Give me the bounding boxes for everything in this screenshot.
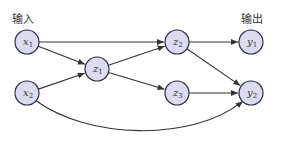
edge-x1-z1 [38,46,85,64]
node-x2: x2 [15,81,39,105]
edge-x2-z1 [38,73,84,89]
edge-z1-z2 [108,46,164,65]
edge-z2-y2 [187,49,240,86]
nodes-group: x1x2z1z2z3y1y2 [15,30,263,105]
node-x1: x1 [15,30,39,54]
edge-z1-z3 [108,72,164,89]
graph-diagram: x1x2z1z2z3y1y2 [0,0,283,142]
edge-x2-y2 [36,101,243,131]
node-y1: y1 [239,30,263,54]
edges-group [36,42,243,131]
node-z1: z1 [85,57,109,81]
node-z3: z3 [165,81,189,105]
node-y2: y2 [239,81,263,105]
node-z2: z2 [165,30,189,54]
